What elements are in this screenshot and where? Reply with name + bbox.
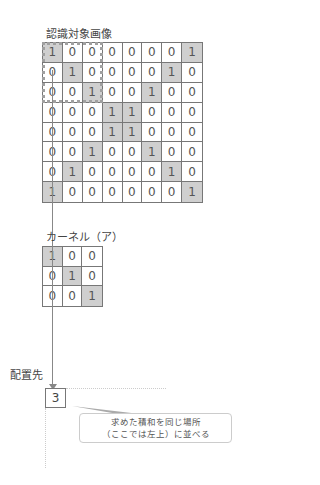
callout-line-2: （ここでは左上）に並べる [80,428,231,440]
callout-line-1: 求めた積和を同じ場所 [80,416,231,428]
callout-box: 求めた積和を同じ場所 （ここでは左上）に並べる [79,413,232,443]
